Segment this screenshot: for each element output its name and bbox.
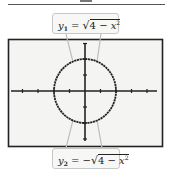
y1-equals: = <box>68 20 83 31</box>
radical-icon: √ <box>91 154 98 167</box>
y1-exponent: 2 <box>116 19 120 26</box>
y2-equals: = <box>68 155 83 166</box>
y1-radicand-const: 4 − <box>90 20 111 31</box>
y2-radicand-const: 4 − <box>98 155 119 166</box>
y1-radicand: 4 − x2 <box>90 19 121 31</box>
y2-radicand: 4 − x2 <box>98 154 129 166</box>
radical-icon: √ <box>83 19 90 32</box>
equation-label-y1: y1 = √4 − x2 <box>52 13 119 34</box>
y2-exponent: 2 <box>125 154 129 161</box>
y2-sign: − <box>83 155 91 166</box>
equation-label-y2: y2 = −√4 − x2 <box>52 148 120 169</box>
